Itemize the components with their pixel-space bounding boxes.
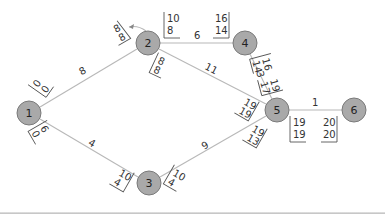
svg-text:8: 8	[167, 25, 173, 36]
time-box-2-5-start: 8 8	[149, 53, 170, 78]
svg-text:19: 19	[293, 129, 306, 140]
svg-text:3: 3	[146, 177, 153, 190]
svg-text:19: 19	[293, 117, 306, 128]
time-box-2-4-end: 16 14	[213, 12, 229, 38]
duration-1-2: 8	[77, 65, 88, 78]
svg-text:10: 10	[167, 13, 180, 24]
bottom-divider	[0, 212, 385, 214]
duration-5-6: 1	[312, 97, 318, 108]
time-box-5-6-start: 19 19	[290, 116, 306, 142]
time-box-1-2-end: 8 8	[108, 19, 131, 45]
node-5: 5	[265, 98, 289, 122]
svg-text:6: 6	[351, 104, 358, 117]
node-3: 3	[137, 171, 161, 195]
node-2: 2	[136, 31, 160, 55]
node-1: 1	[17, 101, 41, 125]
svg-text:20: 20	[323, 117, 336, 128]
node-4: 4	[233, 31, 257, 55]
svg-text:2: 2	[145, 37, 152, 50]
duration-2-5: 11	[203, 61, 219, 77]
time-box-2-4-start: 10 8	[164, 12, 180, 38]
time-box-3-5-end: 19 13	[242, 121, 267, 148]
time-box-3-5-start: 10 4	[163, 165, 188, 192]
node-6: 6	[342, 98, 366, 122]
svg-text:1: 1	[26, 107, 33, 120]
svg-text:4: 4	[242, 37, 249, 50]
time-box-1-2-start: 0 0	[28, 74, 53, 97]
edge-2-5	[159, 49, 266, 104]
svg-text:16: 16	[215, 13, 228, 24]
edge-1-2	[40, 49, 137, 107]
time-box-1-3-end: 10 4	[109, 165, 134, 192]
time-box-4-5-start: 16 14	[250, 54, 275, 75]
duration-2-4: 6	[194, 30, 200, 41]
svg-text:5: 5	[274, 104, 281, 117]
duration-3-5: 9	[199, 139, 210, 152]
time-box-5-6-end: 20 20	[321, 116, 337, 142]
network-diagram: 8 4 6 11 3 9 1 0 0 8 8 6 0 10 4 10 8 16 …	[0, 0, 385, 215]
time-box-2-5-end: 19 19	[234, 94, 259, 121]
svg-text:20: 20	[323, 129, 336, 140]
svg-text:14: 14	[215, 25, 228, 36]
